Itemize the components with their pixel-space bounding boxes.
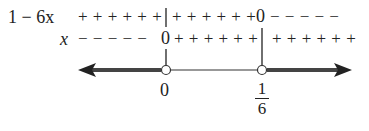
number-line-graphic <box>0 0 369 131</box>
tick-label-one-sixth: 1 6 <box>255 80 269 117</box>
open-circle-at-0 <box>162 66 171 75</box>
fraction-numerator: 1 <box>255 80 269 97</box>
tick-label-0: 0 <box>160 80 169 101</box>
open-circle-at-1-6 <box>258 66 267 75</box>
fraction-denominator: 6 <box>255 100 269 117</box>
